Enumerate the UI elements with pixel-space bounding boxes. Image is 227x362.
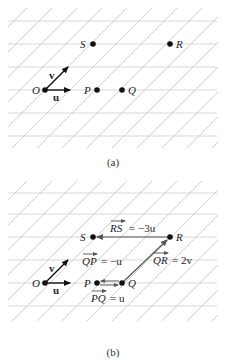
point-q-b bbox=[119, 280, 125, 286]
svg-text:= −u: = −u bbox=[101, 255, 122, 267]
point-q-a bbox=[119, 87, 125, 93]
point-o-a bbox=[42, 87, 48, 93]
label-q-a: Q bbox=[128, 84, 136, 96]
equation-qp: QP = −u bbox=[82, 254, 122, 267]
caption-a: (a) bbox=[107, 156, 120, 169]
svg-text:RS: RS bbox=[109, 222, 123, 234]
equation-qr: QR = 2v bbox=[153, 253, 192, 266]
equation-pq: PQ = u bbox=[90, 291, 125, 304]
label-q-b: Q bbox=[128, 277, 136, 289]
svg-text:QR: QR bbox=[153, 254, 168, 266]
svg-text:= u: = u bbox=[110, 292, 125, 304]
point-s-a bbox=[90, 41, 96, 47]
point-r-a bbox=[167, 41, 173, 47]
label-r-a: R bbox=[175, 38, 183, 50]
label-o-a: O bbox=[32, 84, 40, 96]
vector-diagram: O P Q S R v u (a) bbox=[0, 0, 227, 362]
point-p-b bbox=[94, 280, 100, 286]
caption-b: (b) bbox=[107, 346, 120, 359]
label-s-a: S bbox=[80, 38, 86, 50]
label-u-a: u bbox=[53, 91, 59, 103]
label-p-b: P bbox=[83, 277, 91, 289]
label-v-a: v bbox=[49, 69, 55, 81]
svg-text:QP: QP bbox=[82, 255, 97, 267]
point-s-b bbox=[90, 234, 96, 240]
point-r-b bbox=[167, 234, 173, 240]
label-v-b: v bbox=[49, 262, 55, 274]
svg-text:= −3u: = −3u bbox=[129, 222, 156, 234]
point-p-a bbox=[94, 87, 100, 93]
panel-a: O P Q S R v u (a) bbox=[0, 0, 227, 169]
label-p-a: P bbox=[83, 84, 91, 96]
label-u-b: u bbox=[53, 284, 59, 296]
equation-rs: RS = −3u bbox=[109, 221, 156, 234]
svg-text:= 2v: = 2v bbox=[172, 254, 192, 266]
label-r-b: R bbox=[175, 231, 183, 243]
panel-b: O P Q S R v u RS = −3u QR = 2v QP = −u P… bbox=[0, 173, 227, 359]
svg-text:PQ: PQ bbox=[90, 292, 106, 304]
point-o-b bbox=[42, 280, 48, 286]
label-s-b: S bbox=[80, 231, 86, 243]
grid-a bbox=[0, 0, 227, 150]
label-o-b: O bbox=[32, 277, 40, 289]
